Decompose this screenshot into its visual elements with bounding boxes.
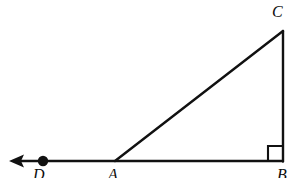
point-marker-D <box>38 156 48 166</box>
geometry-figure: C B A D <box>0 0 299 178</box>
right-angle-marker-icon <box>268 146 283 161</box>
vertex-label-b: B <box>277 167 287 178</box>
vertex-label-d: D <box>33 167 45 178</box>
hypotenuse-segment-AC <box>115 31 283 161</box>
geometry-canvas <box>0 0 299 178</box>
vertex-label-a: A <box>108 167 118 178</box>
vertex-label-c: C <box>272 4 283 20</box>
